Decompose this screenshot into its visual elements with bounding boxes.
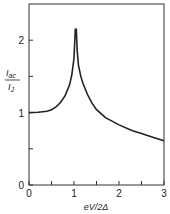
x-tick-label: 0 bbox=[26, 188, 32, 199]
chart: 0123 012 eV/2Δ Iac IJ bbox=[0, 0, 170, 214]
y-tick-label: 2 bbox=[18, 35, 24, 46]
y-axis-label: Iac IJ bbox=[5, 68, 20, 93]
svg-text:IJ: IJ bbox=[8, 82, 15, 93]
y-label-denominator-sub: J bbox=[10, 86, 15, 93]
x-tick-label: 2 bbox=[116, 188, 122, 199]
y-label-numerator-sub: ac bbox=[9, 72, 17, 79]
plot-frame bbox=[29, 4, 164, 185]
y-tick-label: 0 bbox=[18, 180, 24, 191]
x-tick-label: 1 bbox=[71, 188, 77, 199]
x-axis-ticks: 0123 bbox=[26, 181, 167, 199]
y-tick-label: 1 bbox=[18, 108, 24, 119]
x-axis-label: eV/2Δ bbox=[84, 202, 109, 212]
series-line bbox=[29, 29, 164, 141]
svg-text:Iac: Iac bbox=[6, 68, 16, 79]
x-tick-label: 3 bbox=[161, 188, 167, 199]
